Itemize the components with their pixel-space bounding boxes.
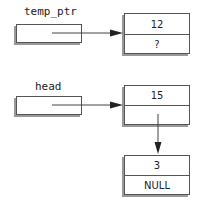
arrows — [0, 0, 202, 206]
arrow-temp-ptr-to-node-12 — [52, 30, 123, 37]
arrow-node-15-to-node-3 — [155, 114, 162, 154]
arrow-head-to-node-15 — [52, 102, 123, 109]
